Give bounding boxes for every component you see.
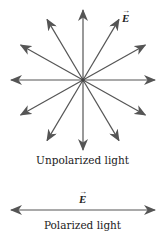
- origin-dot: [81, 78, 85, 82]
- field-vector-arrow: [21, 80, 83, 115]
- vector-arrow-icon: →: [79, 187, 86, 196]
- e-vector-label-polarized: → E: [79, 193, 86, 205]
- e-vector-label-unpolarized: → E: [122, 12, 129, 24]
- field-vector-arrow: [83, 80, 119, 141]
- field-vector-arrow: [47, 19, 83, 80]
- vector-arrow-icon: →: [122, 6, 129, 15]
- unpolarized-caption: Unpolarized light: [0, 154, 165, 166]
- field-vector-arrow: [83, 45, 145, 80]
- field-vector-arrow: [21, 45, 83, 80]
- field-vector-arrow: [47, 80, 83, 141]
- polarized-caption: Polarized light: [0, 219, 165, 231]
- polarization-diagram: → E Unpolarized light → E Polarized ligh…: [0, 0, 165, 234]
- field-vector-arrow: [83, 80, 145, 115]
- field-vector-arrow: [83, 19, 119, 80]
